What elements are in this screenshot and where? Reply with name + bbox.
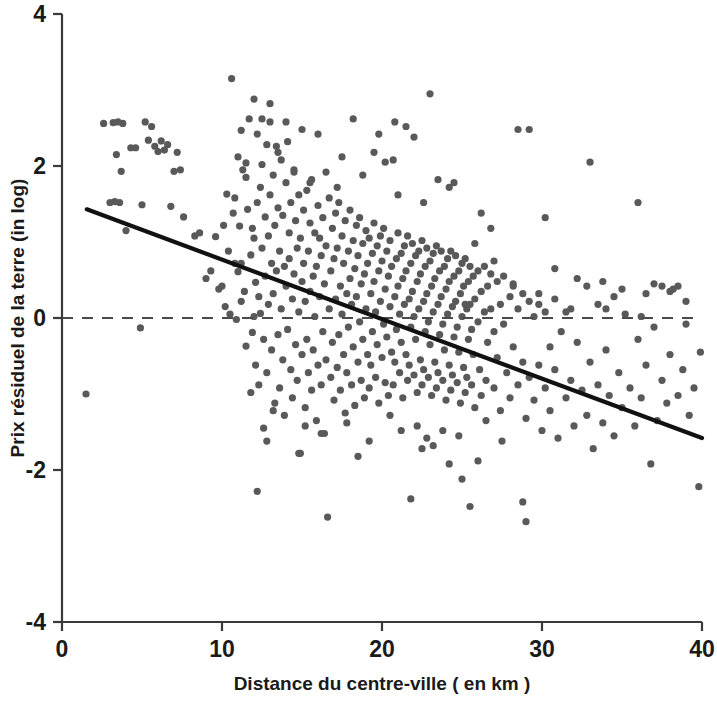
data-point [242,174,249,181]
data-point [542,308,549,315]
data-point [138,201,145,208]
data-point [247,389,254,396]
data-point [258,244,265,251]
data-point [433,384,440,391]
data-point [615,369,622,376]
data-point [196,229,203,236]
data-point [254,488,261,495]
data-point [414,389,421,396]
data-point [310,273,317,280]
data-point [506,394,513,401]
data-point [460,364,467,371]
data-point [290,270,297,277]
data-point [567,377,574,384]
data-point [321,280,328,287]
data-point [265,301,272,308]
data-point [695,483,702,490]
data-point [650,280,657,287]
data-point [574,339,581,346]
data-point [332,210,339,217]
data-point [439,320,446,327]
data-point [599,278,606,285]
y-tick-label: -2 [26,457,46,483]
data-point [238,127,245,134]
data-point [337,282,344,289]
data-point [263,141,270,148]
data-point [647,460,654,467]
data-point [180,213,187,220]
data-point [399,275,406,282]
data-point [294,377,301,384]
data-point [370,278,377,285]
data-point [364,351,371,358]
data-point [498,438,505,445]
data-point [113,151,120,158]
data-point [170,168,177,175]
data-point [242,343,249,350]
data-point [122,227,129,234]
data-point [406,362,413,369]
data-point [497,301,504,308]
data-point [446,460,453,467]
data-point [410,371,417,378]
data-point [522,415,529,422]
data-point [354,252,361,259]
data-point [414,278,421,285]
data-point [319,328,326,335]
data-point [380,225,387,232]
data-point [586,159,593,166]
data-point [391,293,398,300]
scatter-plot-figure: -4-2024 010203040 Distance du centre-vil… [0,0,717,701]
data-point [250,96,257,103]
data-point [474,318,481,325]
data-point [322,242,329,249]
data-point [426,90,433,97]
data-point [369,250,376,257]
data-point [286,229,293,236]
data-point [423,290,430,297]
data-point [377,298,384,305]
data-point [270,407,277,414]
data-point [354,453,361,460]
data-point [82,390,89,397]
data-point [642,362,649,369]
data-point [465,278,472,285]
data-point [526,126,533,133]
data-point [266,118,273,125]
data-point [510,343,517,350]
data-point [402,351,409,358]
data-point [340,260,347,267]
data-point [450,333,457,340]
data-point [238,298,245,305]
data-point [487,225,494,232]
data-point [494,278,501,285]
data-point [450,273,457,280]
data-point [322,168,329,175]
data-point [642,290,649,297]
data-point [417,356,424,363]
data-point [366,438,373,445]
data-point [314,362,321,369]
data-point [487,270,494,277]
data-point [410,134,417,141]
data-point [284,326,291,333]
data-point [471,295,478,302]
data-point [313,263,320,270]
data-point [351,265,358,272]
data-point [257,184,264,191]
data-point [342,217,349,224]
data-point [434,301,441,308]
data-point [375,267,382,274]
data-point [356,318,363,325]
data-point [425,318,432,325]
data-point [271,222,278,229]
data-point [602,305,609,312]
data-point [303,187,310,194]
data-point [422,263,429,270]
data-point [366,235,373,242]
data-point [233,316,240,323]
data-point [431,358,438,365]
data-point [428,392,435,399]
data-point [231,194,238,201]
data-point [399,394,406,401]
